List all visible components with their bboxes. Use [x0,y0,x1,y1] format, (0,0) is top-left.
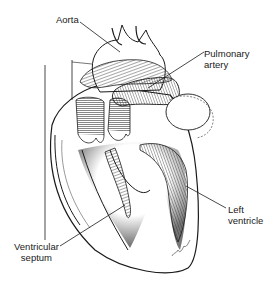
label-left-ventricle: Left ventricle [228,204,263,226]
label-aorta: Aorta [56,14,79,25]
heart-diagram: Aorta Pulmonary artery Left ventricle Ve… [0,0,279,282]
label-ventricular-septum: Ventricular septum [14,241,59,263]
label-pulmonary-artery: Pulmonary artery [204,48,249,70]
heart-illustration [0,0,279,282]
left-atrium [166,94,210,130]
